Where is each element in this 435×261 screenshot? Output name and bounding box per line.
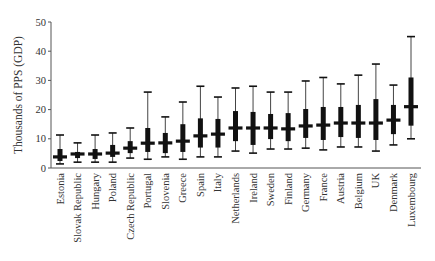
y-axis: 01020304050 — [36, 17, 52, 174]
median-bar — [246, 126, 260, 129]
box-belgium — [351, 75, 365, 147]
iqr-box — [321, 107, 326, 140]
y-tick-label: 10 — [36, 133, 47, 144]
iqr-box — [409, 77, 414, 125]
median-bar — [53, 155, 67, 158]
iqr-box — [110, 145, 115, 157]
x-tick-label: UK — [370, 173, 381, 189]
box-slovenia — [158, 117, 172, 157]
x-tick-label: Slovenia — [160, 173, 171, 210]
iqr-box — [198, 118, 203, 147]
median-bar — [334, 121, 348, 124]
box-spain — [193, 86, 207, 157]
iqr-box — [180, 124, 185, 152]
box-czech-republic — [123, 128, 137, 158]
x-tick-label: Czech Republic — [125, 173, 136, 240]
box-denmark — [386, 85, 400, 145]
x-tick-label: Denmark — [388, 172, 399, 212]
x-tick-label: Netherlands — [230, 173, 241, 224]
plot-area — [53, 37, 418, 164]
iqr-box — [303, 109, 308, 138]
median-bar — [123, 147, 137, 150]
x-tick-label: Slovak Republic — [72, 173, 83, 243]
x-tick-label: Portugal — [142, 173, 153, 209]
y-tick-label: 50 — [36, 17, 47, 28]
median-bar — [193, 134, 207, 137]
box-germany — [299, 81, 313, 148]
box-greece — [176, 102, 190, 159]
boxplot-chart: 01020304050 EstoniaSlovak RepublicHungar… — [0, 0, 435, 261]
median-bar — [299, 124, 313, 127]
median-bar — [176, 140, 190, 143]
median-bar — [211, 133, 225, 136]
x-tick-label: Belgium — [353, 173, 364, 209]
box-uk — [369, 64, 383, 151]
iqr-box — [58, 149, 63, 161]
box-netherlands — [229, 88, 243, 151]
median-bar — [404, 105, 418, 108]
box-slovak-republic — [71, 143, 85, 162]
x-axis: EstoniaSlovak RepublicHungaryPolandCzech… — [51, 168, 421, 243]
box-portugal — [141, 92, 155, 159]
median-bar — [88, 152, 102, 155]
box-austria — [334, 84, 348, 147]
median-bar — [264, 126, 278, 129]
y-tick-label: 30 — [36, 75, 47, 86]
x-tick-label: Germany — [300, 172, 311, 212]
median-bar — [386, 119, 400, 122]
box-estonia — [53, 135, 67, 164]
box-finland — [281, 92, 295, 149]
box-sweden — [264, 92, 278, 149]
median-bar — [229, 126, 243, 129]
x-tick-label: Italy — [212, 172, 223, 192]
median-bar — [316, 123, 330, 126]
x-tick-label: Hungary — [90, 172, 101, 209]
x-tick-label: Ireland — [248, 172, 259, 202]
box-hungary — [88, 135, 102, 162]
iqr-box — [145, 128, 150, 152]
box-italy — [211, 97, 225, 157]
x-tick-label: Sweden — [265, 172, 276, 206]
y-tick-label: 0 — [41, 163, 46, 174]
box-france — [316, 77, 330, 149]
x-tick-label: Finland — [283, 172, 294, 205]
x-tick-label: Estonia — [55, 173, 66, 205]
y-axis-title: Thousands of PPS (GDP) — [12, 36, 25, 154]
median-bar — [106, 152, 120, 155]
median-bar — [141, 142, 155, 145]
x-tick-label: Austria — [335, 173, 346, 204]
iqr-box — [356, 105, 361, 138]
median-bar — [71, 152, 85, 155]
x-tick-label: Luxembourg — [406, 172, 417, 227]
box-poland — [106, 133, 120, 162]
x-tick-label: France — [318, 173, 329, 202]
iqr-box — [373, 99, 378, 140]
median-bar — [158, 141, 172, 144]
iqr-box — [286, 113, 291, 141]
x-tick-label: Spain — [195, 172, 206, 197]
median-bar — [281, 127, 295, 130]
box-luxembourg — [404, 37, 418, 139]
median-bar — [369, 121, 383, 124]
x-tick-label: Poland — [107, 172, 118, 202]
y-tick-label: 20 — [36, 104, 47, 115]
iqr-box — [233, 111, 238, 141]
median-bar — [351, 121, 365, 124]
y-tick-label: 40 — [36, 46, 47, 57]
x-tick-label: Greece — [177, 173, 188, 203]
box-ireland — [246, 86, 260, 153]
